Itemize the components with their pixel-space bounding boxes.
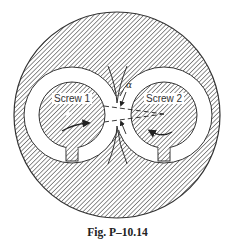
angle-alpha-label: α [126,80,132,90]
screw-1-label: Screw 1 [54,93,91,104]
twin-screw-cross-section-diagram: Screw 1 Screw 2 α [0,0,235,247]
figure-caption: Fig. P–10.14 [0,226,235,238]
screw-2-label: Screw 2 [146,93,183,104]
